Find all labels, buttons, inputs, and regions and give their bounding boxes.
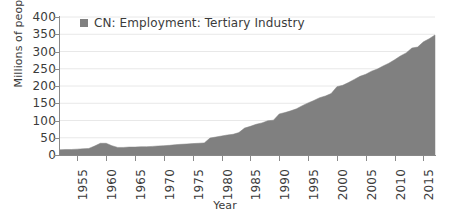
y-tick-label-300: 300 <box>2 46 56 58</box>
y-tick-mark-350 <box>54 34 59 35</box>
x-tick-mark-1955 <box>77 156 78 161</box>
x-tick-mark-1975 <box>193 156 194 161</box>
y-tick-mark-50 <box>54 138 59 139</box>
y-tick-label-250: 250 <box>2 63 56 75</box>
y-tick-mark-300 <box>54 52 59 53</box>
y-tick-label-350: 350 <box>2 28 56 40</box>
y-tick-mark-200 <box>54 86 59 87</box>
x-tick-mark-1970 <box>164 156 165 161</box>
series-area-tertiary-industry <box>60 35 435 155</box>
x-tick-mark-1960 <box>106 156 107 161</box>
x-tick-mark-2005 <box>366 156 367 161</box>
y-tick-mark-100 <box>54 121 59 122</box>
x-tick-mark-1980 <box>222 156 223 161</box>
x-tick-mark-2000 <box>337 156 338 161</box>
y-tick-label-200: 200 <box>2 80 56 92</box>
legend-swatch-icon <box>80 19 88 27</box>
y-tick-mark-0 <box>54 155 59 156</box>
chart-container: Millions of people 050100150200250300350… <box>0 0 450 217</box>
chart-legend: CN: Employment: Tertiary Industry <box>80 17 305 29</box>
y-tick-label-50: 50 <box>2 132 56 144</box>
x-tick-mark-2015 <box>423 156 424 161</box>
area-chart-svg <box>60 17 435 155</box>
x-tick-mark-1990 <box>279 156 280 161</box>
y-tick-label-0: 0 <box>2 149 56 161</box>
x-tick-mark-1985 <box>250 156 251 161</box>
y-axis-tick-labels: 050100150200250300350400 <box>0 0 56 217</box>
y-tick-label-150: 150 <box>2 97 56 109</box>
legend-label: CN: Employment: Tertiary Industry <box>94 17 305 29</box>
y-tick-mark-150 <box>54 103 59 104</box>
x-tick-mark-2010 <box>395 156 396 161</box>
x-axis-title: Year <box>0 199 450 212</box>
y-tick-mark-250 <box>54 69 59 70</box>
y-tick-mark-400 <box>54 17 59 18</box>
x-tick-mark-1965 <box>135 156 136 161</box>
plot-area <box>60 17 435 155</box>
y-tick-label-400: 400 <box>2 11 56 23</box>
x-tick-mark-1995 <box>308 156 309 161</box>
y-tick-label-100: 100 <box>2 115 56 127</box>
